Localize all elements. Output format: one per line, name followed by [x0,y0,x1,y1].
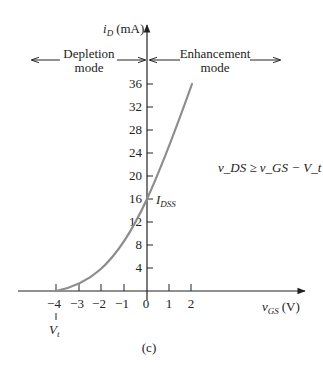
svg-text:−2: −2 [92,296,106,311]
svg-text:32: 32 [129,99,142,114]
enhancement-mode-indicator: Enhancement mode [150,46,280,75]
svg-text:−4: −4 [47,296,61,311]
svg-text:2: 2 [188,296,195,311]
depletion-label-line1: Depletion [63,46,115,61]
y-ticks [147,84,153,268]
svg-text:24: 24 [129,145,143,160]
enhancement-label-line2: mode [201,60,230,75]
y-axis-label: iD(mA) [103,21,144,38]
svg-text:16: 16 [129,191,143,206]
svg-text:−3: −3 [70,296,84,311]
depletion-mode-indicator: Depletion mode [32,46,145,75]
x-tick-labels: −4 −3 −2 −1 0 1 2 [47,296,194,311]
transfer-curve [56,84,192,291]
idss-label: IDSS [155,192,176,209]
svg-text:36: 36 [129,76,143,91]
transfer-characteristic-chart: iD(mA) Depletion mode Enhancement mode 4… [0,0,323,373]
depletion-label-line2: mode [75,60,104,75]
saturation-condition: v_DS ≥ v_GS − V_t [218,160,322,175]
y-tick-labels: 4 8 12 16 20 24 28 32 36 [129,76,143,275]
svg-text:0: 0 [143,296,150,311]
svg-text:−1: −1 [115,296,129,311]
vt-label: Vt [49,322,60,339]
figure-caption: (c) [142,340,156,355]
x-axis-label: vGS(V) [262,299,300,316]
svg-text:20: 20 [129,168,142,183]
svg-text:8: 8 [136,237,143,252]
svg-text:4: 4 [136,260,143,275]
svg-text:28: 28 [129,122,142,137]
enhancement-label-line1: Enhancement [180,46,251,61]
svg-text:1: 1 [166,296,173,311]
